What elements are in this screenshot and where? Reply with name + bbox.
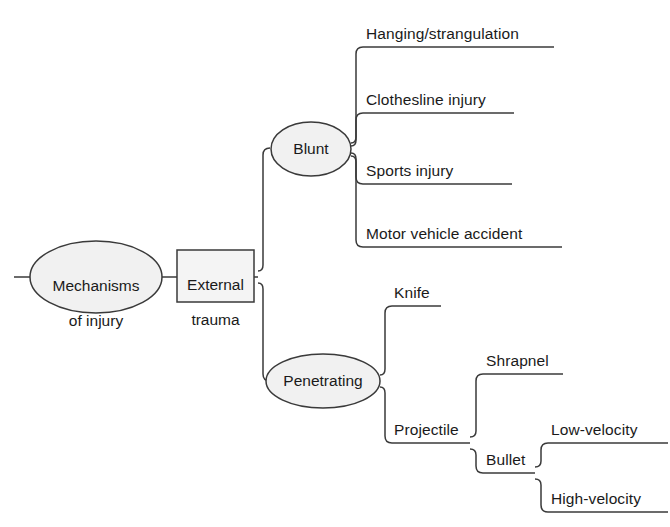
trunk-node-label: External trauma <box>177 259 254 346</box>
leaf-label-shrapnel: Shrapnel <box>486 352 549 370</box>
projectile-to-shrapnel-connector <box>470 374 483 437</box>
leaf-label-hanging-strangulation: Hanging/strangulation <box>366 25 519 43</box>
root-node-label-line2: of injury <box>30 312 162 329</box>
blunt-to-clothesline-connector <box>351 113 363 146</box>
penetrating-to-knife-connector <box>380 306 392 375</box>
leaf-label-clothesline-injury: Clothesline injury <box>366 91 486 109</box>
projectile-to-bullet-connector <box>470 449 483 473</box>
root-node-label-line1: Mechanisms <box>30 277 162 294</box>
leaf-label-knife: Knife <box>394 284 430 302</box>
fork-to-blunt-connector <box>258 148 270 271</box>
mind-map-diagram: Mechanisms of injury External trauma Blu… <box>0 0 670 527</box>
leaf-label-low-velocity: Low-velocity <box>551 421 637 439</box>
blunt-node-label: Blunt <box>271 140 351 157</box>
leaf-label-sports-injury: Sports injury <box>366 162 453 180</box>
penetrating-to-projectile-connector <box>380 387 392 443</box>
blunt-to-sports-connector <box>351 153 363 184</box>
fork-to-penetrating-connector <box>258 283 270 381</box>
leaf-label-high-velocity: High-velocity <box>551 490 641 508</box>
trunk-node-label-line2: trauma <box>177 311 254 328</box>
blunt-to-hanging-connector <box>351 47 363 143</box>
leaf-label-motor-vehicle-accident: Motor vehicle accident <box>366 225 522 243</box>
blunt-to-mva-connector <box>351 156 363 247</box>
root-node-label: Mechanisms of injury <box>30 260 162 347</box>
bullet-to-high-velocity-connector <box>535 479 548 512</box>
leaf-label-bullet: Bullet <box>486 451 525 469</box>
bullet-to-low-velocity-connector <box>535 443 548 467</box>
trunk-node-label-line1: External <box>177 276 254 293</box>
leaf-label-projectile: Projectile <box>394 421 459 439</box>
penetrating-node-label: Penetrating <box>266 372 380 389</box>
